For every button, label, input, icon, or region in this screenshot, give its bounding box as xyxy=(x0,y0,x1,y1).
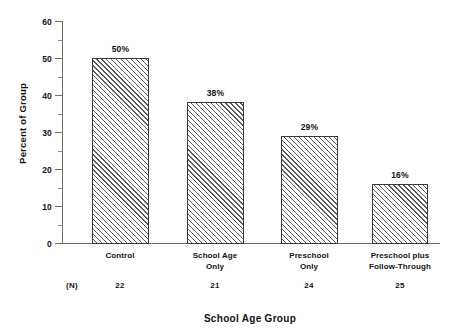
x-axis-title: School Age Group xyxy=(135,313,365,324)
bar-school-age-only xyxy=(187,102,244,244)
category-label-school-age-only-line2: Only xyxy=(175,261,255,272)
n-value-preschool-plus-follow-through: 25 xyxy=(344,281,456,290)
y-tick-label-30: 30 xyxy=(26,128,52,138)
y-tick-label-50: 50 xyxy=(26,54,52,64)
category-label-preschool-plus-follow-through: Preschool plus Follow-Through xyxy=(344,250,456,272)
category-label-preschool-plus-line2: Follow-Through xyxy=(344,261,456,272)
y-axis-title: Percent of Group xyxy=(17,74,28,174)
y-tick-label-0: 0 xyxy=(26,239,52,249)
n-value-preschool-only: 24 xyxy=(269,281,349,290)
bar-value-control: 50% xyxy=(92,44,149,54)
y-tick-minor-5 xyxy=(58,225,62,226)
bar-preschool-only xyxy=(281,136,338,244)
y-tick-10 xyxy=(55,206,62,207)
category-label-preschool-only-line1: Preschool xyxy=(269,250,349,261)
bar-value-preschool-plus-follow-through: 16% xyxy=(372,170,428,180)
bar-value-school-age-only: 38% xyxy=(187,88,244,98)
bar-chart: Percent of Group 60 50 40 30 20 10 0 50%… xyxy=(0,0,469,335)
y-tick-label-60: 60 xyxy=(26,17,52,27)
y-tick-30 xyxy=(55,132,62,133)
category-label-control-line1: Control xyxy=(80,250,160,261)
bar-preschool-plus-follow-through xyxy=(372,184,428,244)
y-tick-label-10: 10 xyxy=(26,202,52,212)
y-tick-minor-25 xyxy=(58,151,62,152)
n-value-control: 22 xyxy=(80,281,160,290)
category-label-preschool-plus-line1: Preschool plus xyxy=(344,250,456,261)
n-value-school-age-only: 21 xyxy=(175,281,255,290)
y-tick-label-40: 40 xyxy=(26,91,52,101)
category-label-preschool-only: Preschool Only xyxy=(269,250,349,272)
category-label-school-age-only-line1: School Age xyxy=(175,250,255,261)
category-label-preschool-only-line2: Only xyxy=(269,261,349,272)
y-tick-20 xyxy=(55,169,62,170)
y-tick-minor-55 xyxy=(58,40,62,41)
y-tick-50 xyxy=(55,58,62,59)
y-tick-minor-35 xyxy=(58,114,62,115)
category-label-control: Control xyxy=(80,250,160,261)
y-axis-line xyxy=(62,21,63,244)
bar-value-preschool-only: 29% xyxy=(281,122,338,132)
category-label-school-age-only: School Age Only xyxy=(175,250,255,272)
y-tick-minor-15 xyxy=(58,188,62,189)
y-tick-60 xyxy=(55,21,62,22)
y-tick-0 xyxy=(55,243,62,244)
y-tick-minor-45 xyxy=(58,77,62,78)
bar-control xyxy=(92,58,149,244)
y-tick-40 xyxy=(55,95,62,96)
y-tick-label-20: 20 xyxy=(26,165,52,175)
